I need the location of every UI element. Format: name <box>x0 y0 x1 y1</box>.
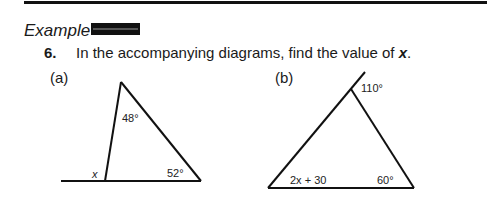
angle-x: x <box>91 168 98 180</box>
angle-2x-plus-30: 2x + 30 <box>290 174 326 186</box>
angle-48: 48° <box>122 112 139 124</box>
triangle-b <box>268 72 414 188</box>
angle-110: 110° <box>361 82 383 94</box>
angle-60: 60° <box>377 174 394 186</box>
diagrams-figure: 48° 52° x 110° 2x + 30 60° <box>0 0 487 204</box>
angle-52: 52° <box>167 167 184 179</box>
